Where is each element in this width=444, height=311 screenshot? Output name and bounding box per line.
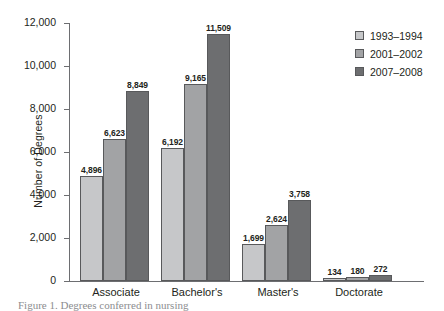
bar-value-label: 6,192 bbox=[162, 137, 183, 147]
y-tick: 10,000 bbox=[64, 66, 70, 67]
plot-area: 02,0004,0006,0008,00010,00012,000 4,8966… bbox=[69, 24, 369, 282]
bar-value-label: 134 bbox=[328, 267, 342, 277]
bar: 9,165 bbox=[184, 84, 207, 281]
y-tick-label: 8,000 bbox=[30, 102, 56, 114]
bar-value-label: 272 bbox=[374, 264, 388, 274]
bar-value-label: 8,849 bbox=[127, 80, 148, 90]
bar-value-label: 9,165 bbox=[185, 73, 206, 83]
legend-item: 2001–2002 bbox=[355, 46, 423, 61]
bar: 272 bbox=[369, 275, 392, 281]
bar-value-label: 6,623 bbox=[104, 128, 125, 138]
legend-item: 1993–1994 bbox=[355, 28, 423, 43]
y-tick: 6,000 bbox=[64, 152, 70, 153]
y-tick-label: 12,000 bbox=[24, 16, 56, 28]
bar-value-label: 180 bbox=[351, 266, 365, 276]
legend-label: 2007–2008 bbox=[370, 66, 423, 78]
y-tick-label: 10,000 bbox=[24, 59, 56, 71]
bar-value-label: 2,624 bbox=[266, 214, 287, 224]
legend-swatch bbox=[355, 67, 364, 76]
y-tick: 8,000 bbox=[64, 109, 70, 110]
legend-item: 2007–2008 bbox=[355, 64, 423, 79]
bar: 11,509 bbox=[207, 34, 230, 281]
bar-value-label: 1,699 bbox=[243, 233, 264, 243]
y-tick: 12,000 bbox=[64, 23, 70, 24]
figure-caption: Figure 1. Degrees conferred in nursing bbox=[18, 299, 438, 311]
y-tick: 2,000 bbox=[64, 238, 70, 239]
bar-group: 6,1929,16511,509 bbox=[161, 23, 230, 281]
bar-value-label: 3,758 bbox=[289, 189, 310, 199]
bar: 6,192 bbox=[161, 148, 184, 281]
legend-swatch bbox=[355, 49, 364, 58]
bar-value-label: 4,896 bbox=[81, 165, 102, 175]
bar: 180 bbox=[346, 277, 369, 281]
y-tick: 4,000 bbox=[64, 195, 70, 196]
bar: 3,758 bbox=[288, 200, 311, 281]
bar: 2,624 bbox=[265, 225, 288, 281]
y-tick-label: 6,000 bbox=[30, 145, 56, 157]
y-tick: 0 bbox=[64, 281, 70, 282]
bar-group: 1,6992,6243,758 bbox=[242, 23, 311, 281]
legend-label: 1993–1994 bbox=[370, 30, 423, 42]
x-category-label: Doctorate bbox=[304, 286, 414, 298]
x-axis-line bbox=[69, 281, 424, 282]
legend-swatch bbox=[355, 31, 364, 40]
legend-label: 2001–2002 bbox=[370, 48, 423, 60]
y-axis-line bbox=[69, 24, 70, 282]
y-tick-label: 0 bbox=[50, 274, 56, 286]
bar: 134 bbox=[323, 278, 346, 281]
bar: 6,623 bbox=[103, 139, 126, 281]
bar: 1,699 bbox=[242, 244, 265, 281]
bar-group: 4,8966,6238,849 bbox=[80, 23, 149, 281]
bar: 8,849 bbox=[126, 91, 149, 281]
y-tick-label: 2,000 bbox=[30, 231, 56, 243]
bar-value-label: 11,509 bbox=[206, 23, 231, 33]
y-tick-label: 4,000 bbox=[30, 188, 56, 200]
bar: 4,896 bbox=[80, 176, 103, 281]
legend: 1993–19942001–20022007–2008 bbox=[355, 28, 423, 82]
